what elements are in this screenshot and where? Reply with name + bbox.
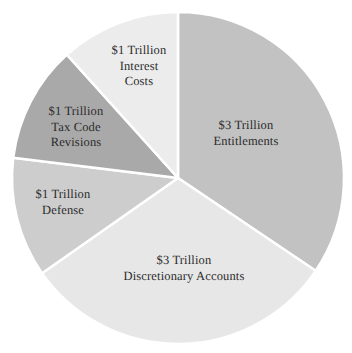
pie-chart-figure: $3 TrillionEntitlements $3 TrillionDiscr… <box>0 0 352 353</box>
pie-chart-canvas <box>0 0 352 353</box>
pie-slice-group <box>12 12 344 344</box>
